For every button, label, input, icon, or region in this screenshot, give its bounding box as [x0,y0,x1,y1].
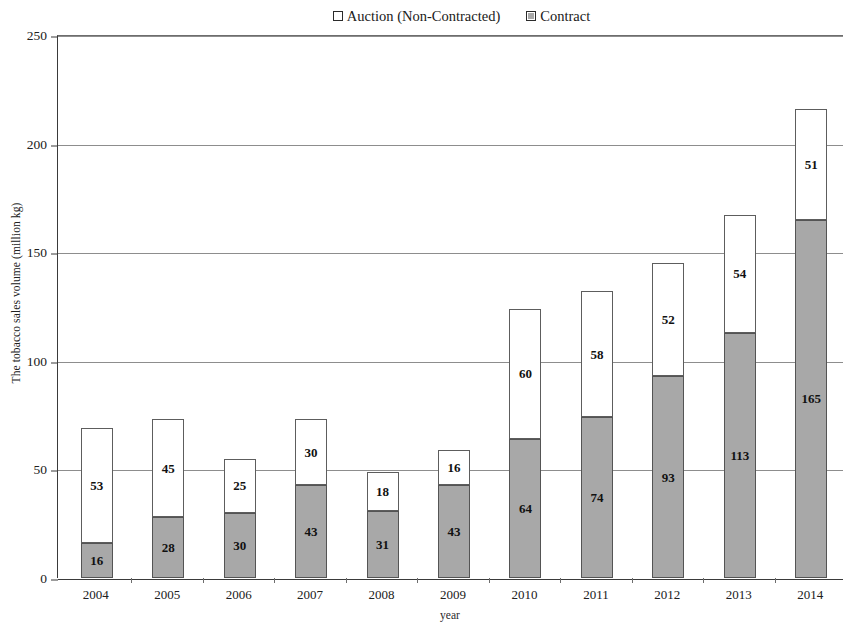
y-axis-tick-label: 200 [27,137,47,153]
legend-item-contract: Contract [526,9,590,24]
bar-value-label-auction: 25 [233,479,246,492]
x-tick [632,578,633,583]
bar-segment-auction[interactable]: 45 [152,419,184,517]
x-tick [203,578,204,583]
x-axis: 2004200520062007200820092010201120122013… [57,578,843,608]
bar-value-label-auction: 54 [733,267,746,280]
y-axis-tick-label: 150 [27,245,47,261]
bar-value-label-contract: 28 [162,541,175,554]
y-axis-tick-label: 250 [27,28,47,44]
x-axis-title: year [57,609,843,621]
x-tick [346,578,347,583]
bar-segment-auction[interactable]: 54 [724,215,756,332]
bar-value-label-contract: 64 [519,502,532,515]
legend-swatch-contract-icon [526,11,536,21]
bar-segment-contract[interactable]: 113 [724,333,756,578]
bar-segment-contract[interactable]: 30 [224,513,256,578]
bar-segment-contract[interactable]: 28 [152,517,184,578]
bar-segment-contract[interactable]: 16 [81,543,113,578]
bar-segment-auction[interactable]: 30 [295,419,327,484]
y-axis-tick-label: 50 [34,462,48,478]
bar-segment-contract[interactable]: 43 [438,485,470,578]
bar-segment-auction[interactable]: 51 [795,109,827,220]
bar-segment-auction[interactable]: 60 [509,309,541,439]
plot-area: 050100150200250 165328453025433031184316… [57,35,843,578]
bar-value-label-auction: 60 [519,367,532,380]
y-tick-150 [51,254,58,255]
bar-value-label-auction: 58 [590,348,603,361]
x-tick [274,578,275,583]
bar-value-label-contract: 30 [233,539,246,552]
bar-value-label-auction: 51 [805,158,818,171]
legend-item-auction: Auction (Non-Contracted) [333,9,500,24]
x-axis-tick-label-2004: 2004 [83,587,109,603]
bar-value-label-auction: 18 [376,485,389,498]
bar-value-label-contract: 113 [730,449,749,462]
legend-label-auction: Auction (Non-Contracted) [347,9,500,24]
y-tick-50 [51,471,58,472]
bar-segment-auction[interactable]: 53 [81,428,113,543]
x-axis-tick-label-2012: 2012 [654,587,680,603]
bar-segment-auction[interactable]: 25 [224,459,256,513]
y-axis-tick-label: 100 [27,354,47,370]
bar-value-label-contract: 43 [448,525,461,538]
bar-segment-contract[interactable]: 31 [367,511,399,578]
x-axis-tick-label-2009: 2009 [440,587,466,603]
x-tick [775,578,776,583]
x-axis-tick-label-2014: 2014 [797,587,823,603]
bar-segment-auction[interactable]: 16 [438,450,470,485]
bar-segment-contract[interactable]: 74 [581,417,613,578]
bar-value-label-contract: 165 [802,392,822,405]
chart-legend: Auction (Non-Contracted) Contract [0,6,843,26]
x-tick [703,578,704,583]
x-tick [131,578,132,583]
x-axis-tick-label-2013: 2013 [726,587,752,603]
bar-value-label-auction: 52 [662,313,675,326]
bar-segment-auction[interactable]: 58 [581,291,613,417]
y-tick-100 [51,362,58,363]
bar-value-label-contract: 93 [662,471,675,484]
bar-value-label-auction: 16 [448,461,461,474]
x-axis-tick-label-2007: 2007 [297,587,323,603]
x-tick [489,578,490,583]
y-axis-title: The tobacco sales volume (million kg) [6,0,26,585]
bar-value-label-contract: 74 [590,491,603,504]
x-axis-tick-label-2008: 2008 [369,587,395,603]
bar-segment-auction[interactable]: 52 [652,263,684,376]
y-axis-title-text: The tobacco sales volume (million kg) [10,202,22,383]
bar-value-label-contract: 16 [90,554,103,567]
bar-series-container: 1653284530254330311843166460745893521135… [58,36,843,578]
y-tick-200 [51,145,58,146]
x-tick [560,578,561,583]
y-tick-250 [51,37,58,38]
x-axis-tick-label-2006: 2006 [226,587,252,603]
y-axis-tick-label: 0 [40,571,47,587]
legend-label-contract: Contract [540,9,590,24]
bar-segment-contract[interactable]: 93 [652,376,684,578]
bar-value-label-contract: 31 [376,538,389,551]
bar-value-label-auction: 30 [305,446,318,459]
bar-segment-contract[interactable]: 165 [795,220,827,578]
bar-segment-auction[interactable]: 18 [367,472,399,511]
bar-segment-contract[interactable]: 64 [509,439,541,578]
x-axis-tick-label-2005: 2005 [154,587,180,603]
bar-segment-contract[interactable]: 43 [295,485,327,578]
bar-value-label-auction: 53 [90,479,103,492]
bar-value-label-contract: 43 [305,525,318,538]
x-axis-tick-label-2011: 2011 [583,587,609,603]
x-tick [417,578,418,583]
legend-swatch-auction-icon [333,11,343,21]
x-axis-tick-label-2010: 2010 [511,587,537,603]
bar-value-label-auction: 45 [162,462,175,475]
